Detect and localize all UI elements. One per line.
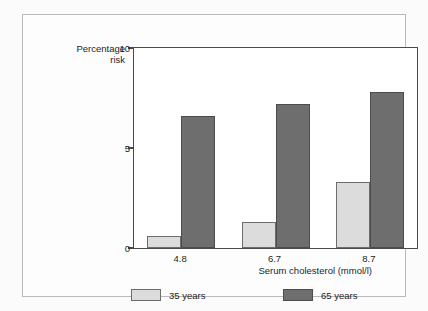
bar	[370, 92, 404, 248]
legend-swatch	[283, 289, 313, 301]
x-axis-tick-label: 6.7	[268, 253, 281, 264]
bar	[147, 236, 181, 248]
bar	[336, 182, 370, 248]
bar	[242, 222, 276, 248]
y-axis-title-line-1: Percentage	[53, 43, 125, 54]
x-axis-tick-label: 8.7	[362, 253, 375, 264]
plot-area: 0510	[133, 47, 418, 249]
y-axis-title-line-2: risk	[53, 54, 125, 65]
bar-group	[147, 48, 215, 248]
legend-swatch	[131, 289, 161, 301]
y-axis-tick-label: 0	[125, 243, 130, 254]
y-axis-tick-label: 5	[125, 143, 130, 154]
legend-label: 65 years	[321, 290, 357, 301]
chart-legend: 35 years65 years	[131, 289, 381, 305]
bar-groups	[134, 48, 417, 248]
legend-item: 65 years	[283, 289, 357, 301]
bar-group	[336, 48, 404, 248]
x-axis-title: Serum cholesterol (mmol/l)	[259, 265, 373, 276]
y-axis-title: Percentage risk	[53, 43, 125, 65]
bar	[181, 116, 215, 248]
legend-item: 35 years	[131, 289, 205, 301]
y-axis-tick-label: 10	[119, 43, 130, 54]
chart-figure: Percentage risk 0510 4.86.78.7 Serum cho…	[0, 0, 428, 311]
bar	[276, 104, 310, 248]
bar-group	[242, 48, 310, 248]
figure-frame: Percentage risk 0510 4.86.78.7 Serum cho…	[22, 14, 406, 297]
legend-label: 35 years	[169, 290, 205, 301]
x-axis-tick-label: 4.8	[174, 253, 187, 264]
